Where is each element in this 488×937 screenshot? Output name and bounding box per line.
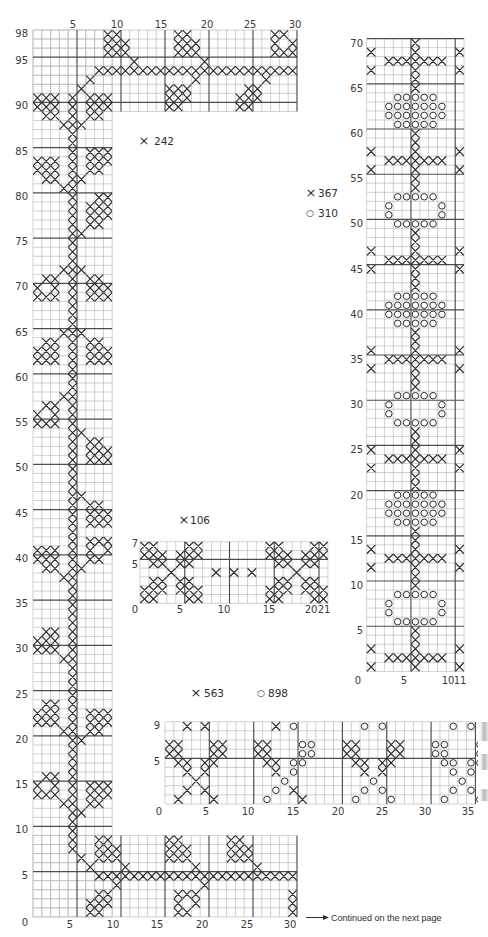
circle-stitch <box>386 501 393 508</box>
circle-stitch <box>412 392 419 399</box>
axis-label: 70 <box>15 281 28 292</box>
circle-stitch <box>403 311 410 318</box>
circle-stitch <box>403 492 410 499</box>
circle-stitch <box>386 600 393 607</box>
circle-stitch <box>394 501 401 508</box>
circle-stitch <box>430 492 437 499</box>
circle-stitch <box>386 302 393 309</box>
circle-stitch <box>412 320 419 327</box>
axis-label: 5 <box>357 625 363 636</box>
axis-label: 30 <box>284 919 297 930</box>
axis-label: 0 <box>355 675 361 686</box>
circle-stitch <box>430 121 437 128</box>
axis-label: 50 <box>15 462 28 473</box>
circle-stitch <box>403 510 410 517</box>
circle-stitch <box>430 510 437 517</box>
axis-label: 85 <box>15 146 28 157</box>
circle-stitch <box>430 293 437 300</box>
axis-label: 0 <box>22 917 28 928</box>
axis-label: 10 <box>350 580 363 591</box>
circle-stitch <box>430 501 437 508</box>
circle-stitch <box>299 750 306 757</box>
circle-stitch <box>450 769 457 776</box>
circle-stitch <box>430 311 437 318</box>
circle-stitch <box>403 320 410 327</box>
circle-stitch <box>468 723 475 730</box>
circle-stitch <box>394 103 401 110</box>
circle-stitch <box>450 760 457 767</box>
axis-label: 30 <box>15 643 28 654</box>
circle-stitch <box>421 293 428 300</box>
axis-label: 25 <box>350 444 363 455</box>
circle-stitch <box>421 501 428 508</box>
circle-stitch <box>352 796 359 803</box>
axis-label: 20 <box>332 806 345 817</box>
circle-stitch <box>430 94 437 101</box>
circle-stitch <box>421 320 428 327</box>
legend-border-242: × 242 <box>139 133 175 148</box>
circle-stitch <box>430 320 437 327</box>
axis-label: 25 <box>244 19 257 30</box>
circle-stitch <box>439 203 446 210</box>
circle-stitch <box>386 212 393 219</box>
axis-label: 35 <box>350 354 363 365</box>
axis-label: 15 <box>15 779 28 790</box>
circle-stitch <box>430 519 437 526</box>
circle-stitch <box>421 618 428 625</box>
circle-stitch <box>394 618 401 625</box>
axis-label: 15 <box>155 19 168 30</box>
axis-label: 21 <box>318 604 331 615</box>
axis-label: 25 <box>15 689 28 700</box>
circle-stitch <box>421 519 428 526</box>
circle-stitch <box>439 410 446 417</box>
circle-stitch <box>388 796 395 803</box>
circle-stitch <box>412 194 419 201</box>
circle-stitch <box>412 103 419 110</box>
circle-stitch <box>403 94 410 101</box>
axis-label: 60 <box>15 372 28 383</box>
circle-stitch <box>441 750 448 757</box>
circle-stitch <box>412 519 419 526</box>
circle-stitch <box>370 778 377 785</box>
circle-stitch <box>379 787 386 794</box>
circle-stitch <box>394 510 401 517</box>
circle-stitch <box>308 750 315 757</box>
axis-label: 75 <box>15 236 28 247</box>
circle-stitch <box>403 293 410 300</box>
circle-stitch <box>273 787 280 794</box>
thread-number: 563 <box>204 687 224 699</box>
circle-stitch <box>421 420 428 427</box>
circle-stitch <box>412 94 419 101</box>
circle-stitch <box>403 591 410 598</box>
circle-stitch <box>430 420 437 427</box>
circle-stitch <box>421 311 428 318</box>
circle-stitch <box>468 787 475 794</box>
circle-stitch <box>421 492 428 499</box>
cross-stitch-icon: × <box>306 185 317 200</box>
axis-label: 20 <box>305 604 318 615</box>
circle-stitch <box>403 519 410 526</box>
circle-stitch <box>441 760 448 767</box>
axis-label: 10 <box>242 806 255 817</box>
page-edge-shading <box>478 722 488 801</box>
axis-label: 5 <box>177 604 183 615</box>
axis-label: 35 <box>462 806 475 817</box>
circle-stitch <box>394 302 401 309</box>
axis-label: 40 <box>15 553 28 564</box>
axis-label: 45 <box>350 264 363 275</box>
axis-label: 50 <box>350 218 363 229</box>
circle-stitch <box>386 311 393 318</box>
circle-stitch <box>290 769 297 776</box>
circle-stitch <box>403 420 410 427</box>
circle-stitch <box>439 311 446 318</box>
circle-stitch <box>394 519 401 526</box>
thread-number: 106 <box>190 514 210 526</box>
circle-stitch <box>421 221 428 228</box>
axis-label: 7 <box>132 538 138 549</box>
axis-label: 5 <box>22 870 28 881</box>
circle-stitch <box>386 401 393 408</box>
axis-label: 5 <box>67 919 73 930</box>
axis-label: 55 <box>15 417 28 428</box>
circle-stitch <box>412 591 419 598</box>
circle-stitch <box>264 796 271 803</box>
